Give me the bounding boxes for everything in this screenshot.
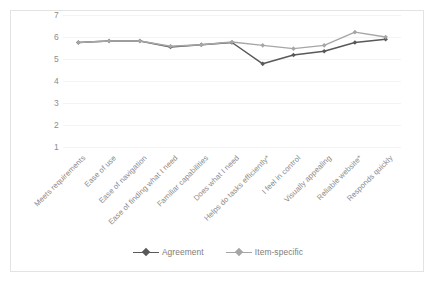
- legend-entry-agreement[interactable]: Agreement: [133, 247, 204, 257]
- y-axis-tick-label: 4: [43, 77, 59, 86]
- legend-marker-icon: [133, 248, 159, 257]
- x-axis-category-labels: Meets requirementsEase of useEase of nav…: [63, 151, 401, 246]
- legend-entry-item-specific[interactable]: Item-specific: [226, 247, 303, 257]
- data-point-marker: [291, 53, 296, 58]
- data-point-marker: [199, 42, 204, 47]
- plot-area: [63, 15, 401, 147]
- data-point-marker: [168, 44, 173, 49]
- legend-marker-icon: [226, 248, 252, 257]
- data-point-marker: [353, 40, 358, 45]
- y-axis-tick-label: 3: [43, 99, 59, 108]
- series-item-specific: [76, 30, 388, 51]
- y-axis-tick-label: 2: [43, 121, 59, 130]
- data-point-marker: [138, 39, 143, 44]
- legend-label: Agreement: [162, 247, 204, 257]
- chart-frame: 7654321 Meets requirementsEase of useEas…: [10, 10, 424, 272]
- legend-label: Item-specific: [255, 247, 303, 257]
- y-axis-tick-label: 7: [43, 11, 59, 20]
- data-point-marker: [353, 30, 358, 35]
- data-point-marker: [322, 49, 327, 54]
- chart-legend: AgreementItem-specific: [11, 247, 425, 257]
- series-lines: [63, 15, 401, 147]
- data-point-marker: [322, 43, 327, 48]
- chart-plot-wrapper: 7654321 Meets requirementsEase of useEas…: [11, 11, 425, 273]
- data-point-marker: [260, 43, 265, 48]
- data-point-marker: [107, 39, 112, 44]
- data-point-marker: [76, 40, 81, 45]
- y-axis-tick-label: 1: [43, 143, 59, 152]
- y-axis: 7654321: [39, 15, 59, 147]
- data-point-marker: [291, 46, 296, 51]
- y-axis-tick-label: 5: [43, 55, 59, 64]
- y-axis-tick-label: 6: [43, 33, 59, 42]
- gridline: [63, 147, 401, 148]
